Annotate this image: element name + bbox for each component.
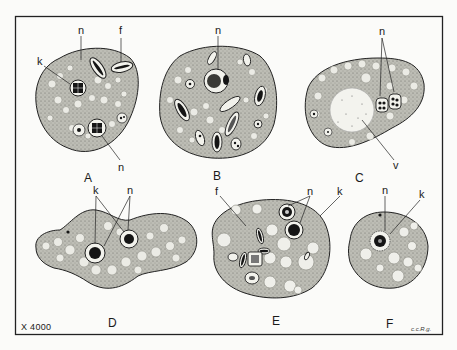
label-b-n: n — [215, 25, 221, 36]
label-f-k: k — [419, 189, 425, 200]
magnification-label: X 4000 — [21, 322, 51, 332]
artist-signature: c.c.R.g. — [411, 326, 431, 332]
label-d-n: n — [127, 185, 133, 196]
label-c-n: n — [379, 26, 385, 37]
cell-c — [305, 38, 424, 160]
panel-label-d: D — [108, 317, 117, 329]
label-a-n-bottom: n — [118, 162, 124, 173]
label-a-n-top: n — [78, 25, 84, 36]
figure-plate — [0, 0, 457, 350]
panel-label-e: E — [272, 315, 280, 327]
cell-e — [212, 196, 340, 298]
label-e-n: n — [307, 186, 313, 197]
cell-c-nucleus-1 — [376, 98, 388, 112]
panel-label-c: C — [355, 172, 364, 184]
label-d-k: k — [93, 185, 99, 196]
label-e-k: k — [337, 186, 343, 197]
panel-label-f: F — [386, 318, 393, 330]
cell-a — [36, 36, 138, 160]
cell-b — [160, 36, 277, 158]
panel-label-a: A — [84, 172, 92, 184]
label-e-f: f — [215, 186, 218, 197]
label-f-n: n — [382, 185, 388, 196]
label-a-k: k — [37, 56, 43, 67]
panel-label-b: B — [213, 170, 221, 182]
cell-c-nucleus-2 — [389, 94, 401, 109]
label-c-v: v — [393, 160, 399, 171]
label-a-f: f — [119, 25, 122, 36]
cell-f — [349, 196, 429, 288]
cell-d — [36, 196, 197, 288]
